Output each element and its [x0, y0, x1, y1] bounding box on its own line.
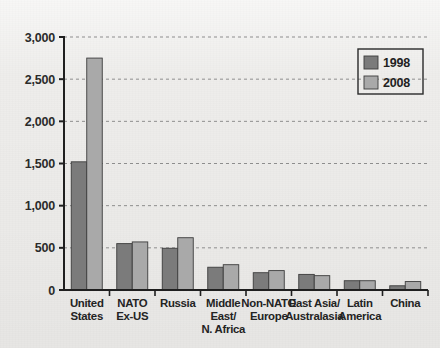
category-label-nato-ex-us: NATO [117, 297, 147, 309]
bar-2008-russia[interactable] [178, 238, 194, 290]
category-label-nato-ex-us: Ex-US [116, 310, 149, 322]
category-label-united-states: States [71, 310, 103, 322]
chart-plot-area: 05001,0001,5002,0002,5003,000 UnitedStat… [0, 0, 440, 348]
y-tick-label-0: 0 [48, 284, 55, 298]
bar-2008-nato-ex-us[interactable] [132, 242, 148, 290]
category-label-non-nato-europe: Europe [250, 310, 287, 322]
bar-1998-nato-ex-us[interactable] [117, 244, 133, 290]
category-label-middle-east-n-africa: East/ [210, 310, 237, 322]
bar-1998-russia[interactable] [162, 248, 178, 290]
y-tick-label-1000: 1,000 [25, 199, 56, 213]
y-tick-label-500: 500 [35, 241, 56, 255]
category-label-latin-america: Latin [347, 297, 373, 309]
legend-label-1998[interactable]: 1998 [383, 56, 410, 70]
category-label-east-asia-australasia: Australasia [285, 310, 344, 322]
bar-1998-latin-america[interactable] [344, 281, 360, 290]
category-label-latin-america: America [338, 310, 382, 322]
y-axis-tick-labels: 05001,0001,5002,0002,5003,000 [25, 31, 56, 298]
x-axis [64, 290, 428, 296]
chart-legend[interactable]: 19982008 [358, 49, 423, 94]
y-tick-label-1500: 1,500 [25, 157, 56, 171]
legend-swatch-1998[interactable] [364, 56, 378, 69]
category-label-china: China [390, 297, 421, 309]
category-label-middle-east-n-africa: Middle [206, 297, 240, 309]
category-label-east-asia-australasia: East Asia/ [289, 297, 341, 309]
legend-label-2008[interactable]: 2008 [383, 76, 410, 90]
bar-1998-east-asia-australasia[interactable] [299, 274, 315, 290]
category-label-middle-east-n-africa: N. Africa [201, 323, 246, 335]
legend-swatch-2008[interactable] [364, 76, 378, 89]
y-tick-label-2000: 2,000 [25, 115, 56, 129]
category-label-united-states: United [70, 297, 104, 309]
x-axis-category-labels: UnitedStatesNATOEx-USRussiaMiddleEast/N.… [70, 297, 421, 335]
y-axis [59, 36, 64, 290]
bar-1998-united-states[interactable] [71, 162, 87, 290]
bar-2008-united-states[interactable] [87, 58, 103, 290]
bar-1998-non-nato-europe[interactable] [253, 273, 269, 290]
category-label-russia: Russia [160, 297, 197, 309]
bar-2008-latin-america[interactable] [360, 281, 376, 290]
bar-2008-china[interactable] [405, 282, 421, 290]
bar-chart-figure: 05001,0001,5002,0002,5003,000 UnitedStat… [0, 0, 440, 348]
bar-1998-middle-east-n-africa[interactable] [208, 267, 224, 290]
bar-2008-non-nato-europe[interactable] [269, 271, 285, 290]
bars-group [71, 58, 421, 290]
bar-2008-east-asia-australasia[interactable] [314, 276, 330, 290]
y-tick-label-3000: 3,000 [25, 31, 56, 45]
bar-2008-middle-east-n-africa[interactable] [223, 265, 239, 290]
y-tick-label-2500: 2,500 [25, 73, 56, 87]
